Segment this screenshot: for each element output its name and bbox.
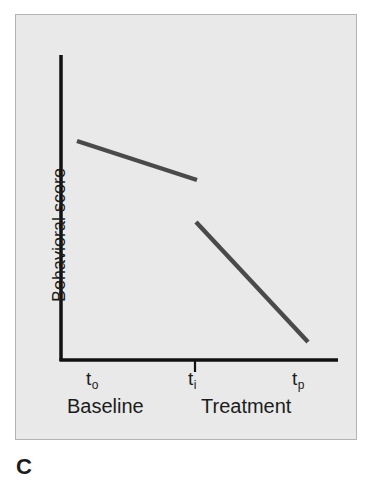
x-tick-label-tp: tp — [292, 369, 304, 388]
panel-letter-label: C — [16, 456, 32, 478]
figure-panel-c: Behavioral score to ti tp Baseline Treat… — [0, 0, 375, 485]
phase-label-baseline: Baseline — [67, 396, 144, 416]
x-tick-label-ti: ti — [188, 369, 196, 388]
x-tick-label-t0-base: t — [86, 368, 91, 389]
x-tick-label-tp-subscript: p — [298, 378, 305, 392]
baseline-trend-line — [77, 141, 197, 180]
x-tick-label-t0-subscript: o — [92, 378, 99, 392]
x-tick-label-t0: to — [86, 369, 98, 388]
x-tick-label-ti-base: t — [188, 368, 193, 389]
phase-label-treatment: Treatment — [201, 396, 291, 416]
treatment-trend-line — [196, 222, 308, 342]
x-tick-label-tp-base: t — [292, 368, 297, 389]
y-axis-label: Behavioral score — [48, 102, 70, 302]
